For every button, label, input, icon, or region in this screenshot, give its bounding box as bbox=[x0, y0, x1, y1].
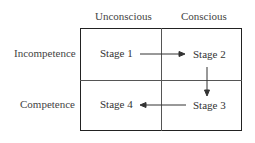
stage-arrows bbox=[0, 0, 255, 143]
